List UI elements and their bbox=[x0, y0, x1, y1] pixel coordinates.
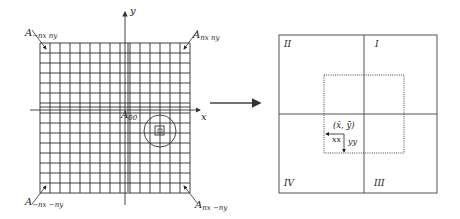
corner-label-top-right: Anx ny bbox=[192, 29, 220, 42]
quadrant-label-i: I bbox=[374, 39, 379, 49]
xx-label: xx bbox=[332, 135, 342, 144]
quadrant-panel: II I IV III (x̄, ȳ) xx yy bbox=[279, 35, 437, 193]
yy-label: yy bbox=[347, 137, 358, 146]
corner-label-top-left: A−nx ny bbox=[24, 27, 58, 40]
quadrant-label-iii: III bbox=[373, 178, 385, 188]
focus-cell-outer bbox=[155, 126, 164, 135]
grid-panel: x y A00 A−nx ny Anx ny A−nx −ny Anx −ny bbox=[24, 5, 228, 212]
x-axis-label: x bbox=[201, 111, 207, 122]
quadrant-label-ii: II bbox=[283, 39, 292, 49]
y-axis-label: y bbox=[129, 5, 136, 16]
centroid-label: (x̄, ȳ) bbox=[333, 120, 355, 130]
origin-label: A00 bbox=[120, 109, 138, 122]
diagram-canvas: x y A00 A−nx ny Anx ny A−nx −ny Anx −ny … bbox=[0, 0, 460, 219]
corner-label-bottom-right: Anx −ny bbox=[194, 199, 228, 212]
corner-label-bottom-left: A−nx −ny bbox=[24, 196, 64, 209]
mesh-grid bbox=[40, 43, 190, 193]
quadrant-label-iv: IV bbox=[283, 178, 296, 188]
